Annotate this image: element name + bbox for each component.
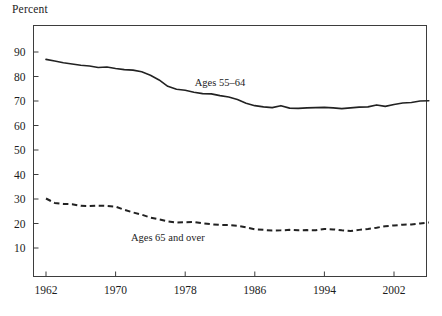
x-tick-label: 1978 (174, 284, 197, 296)
y-tick-label: 70 (14, 95, 26, 107)
x-tick-label: 1986 (243, 284, 266, 296)
y-tick-label: 20 (14, 218, 26, 230)
chart-figure: Percent 102030405060708090 1962197019781… (0, 0, 442, 316)
x-tick-label: 1970 (104, 284, 127, 296)
y-tick-label: 30 (14, 193, 26, 205)
x-tick-label: 1962 (35, 284, 58, 296)
x-tick-label: 1994 (313, 284, 336, 296)
series-annotation-label: Ages 65 and over (131, 232, 205, 243)
y-tick-label: 80 (14, 71, 26, 83)
series-annotation-label: Ages 55–64 (195, 77, 246, 88)
y-tick-label: 90 (14, 46, 26, 58)
y-tick-label: 50 (14, 144, 26, 156)
y-tick-label: 10 (14, 242, 26, 254)
y-tick-label: 40 (14, 169, 26, 181)
plot-border (34, 26, 427, 277)
plot-frame (34, 26, 427, 277)
y-tick-label: 60 (14, 120, 26, 132)
line-chart-plot: 102030405060708090 196219701978198619942… (0, 0, 442, 316)
x-tick-label: 2002 (383, 284, 406, 296)
